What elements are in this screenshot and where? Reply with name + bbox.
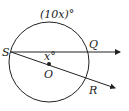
point-q-label: Q — [89, 38, 98, 51]
angle-label: x° — [44, 50, 56, 63]
point-s-label: S — [2, 46, 10, 59]
arc-label: (10x)° — [40, 8, 74, 21]
point-o-label: O — [44, 68, 53, 81]
ray-sr — [11, 52, 115, 88]
circle-diagram: (10x)° S Q R O x° — [0, 0, 129, 111]
point-r-label: R — [88, 84, 97, 97]
